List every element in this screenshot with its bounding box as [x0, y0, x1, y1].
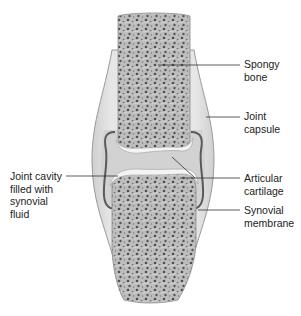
- label-spongy-bone: Spongy bone: [244, 58, 280, 83]
- upper-bone: [118, 13, 190, 151]
- label-joint-capsule: Joint capsule: [244, 110, 280, 135]
- label-joint-cavity: Joint cavity filled with synovial fluid: [10, 170, 62, 220]
- lower-bone: [112, 172, 196, 303]
- label-synovial-membrane: Synovial membrane: [244, 204, 294, 229]
- label-articular-cartilage: Articular cartilage: [244, 172, 284, 197]
- synovial-joint-diagram: [0, 0, 301, 316]
